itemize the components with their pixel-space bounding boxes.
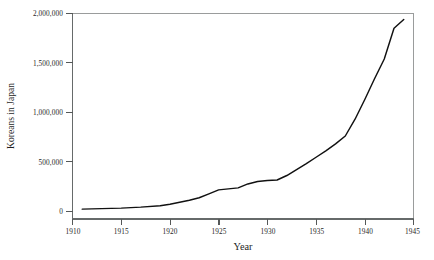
x-tick-label: 1930	[260, 227, 275, 236]
x-tick-label: 1910	[66, 227, 81, 236]
koreans-in-japan-line-chart: 2,000,000 1,500,000 1,000,000 500,000 0 …	[0, 0, 434, 260]
y-tick-label: 1,000,000	[33, 108, 63, 117]
y-axis-tick-labels: 2,000,000 1,500,000 1,000,000 500,000 0	[33, 9, 63, 216]
x-axis-ticks	[73, 219, 414, 225]
x-tick-label: 1915	[114, 227, 129, 236]
y-axis-ticks	[66, 14, 73, 212]
chart-figure: 2,000,000 1,500,000 1,000,000 500,000 0 …	[0, 0, 434, 260]
x-tick-label: 1935	[309, 227, 324, 236]
data-series-koreans-in-japan	[82, 19, 404, 209]
x-tick-label: 1940	[358, 227, 373, 236]
y-tick-label: 0	[59, 207, 63, 216]
y-tick-label: 1,500,000	[33, 59, 63, 68]
y-axis-title: Koreans in Japan	[5, 83, 16, 149]
x-tick-label: 1920	[163, 227, 178, 236]
plot-frame	[72, 14, 414, 220]
y-tick-label: 500,000	[39, 158, 64, 167]
x-tick-label: 1925	[212, 227, 227, 236]
y-tick-label: 2,000,000	[33, 9, 63, 18]
x-axis-tick-labels: 1910 1915 1920 1925 1930 1935 1940 1945	[66, 227, 421, 236]
x-tick-label: 1945	[405, 227, 420, 236]
x-axis-title: Year	[234, 241, 254, 252]
